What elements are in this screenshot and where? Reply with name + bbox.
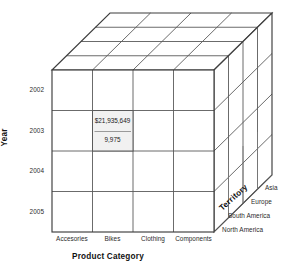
- year-tick-2003: 2003: [14, 128, 44, 134]
- year-tick-2005: 2005: [14, 209, 44, 215]
- product-category-axis-title: Product Category: [72, 252, 144, 261]
- category-tick-components: Components: [169, 236, 219, 242]
- territory-tick-asia: Asia: [265, 185, 278, 191]
- olap-cube-figure: .ln{ stroke:#5a5a5a; stroke-width:0.9; f…: [0, 0, 299, 276]
- territory-tick-north-america: North America: [222, 227, 263, 233]
- year-tick-2004: 2004: [14, 168, 44, 174]
- cell-measure-sales-amount: $21,935,649: [88, 117, 137, 124]
- year-tick-2002: 2002: [14, 87, 44, 93]
- cell-measure-order-quantity: 9,975: [88, 136, 137, 143]
- territory-tick-europe: Europe: [251, 199, 272, 205]
- year-axis-title: Year: [0, 128, 9, 146]
- territory-tick-south-america: South America: [228, 213, 270, 219]
